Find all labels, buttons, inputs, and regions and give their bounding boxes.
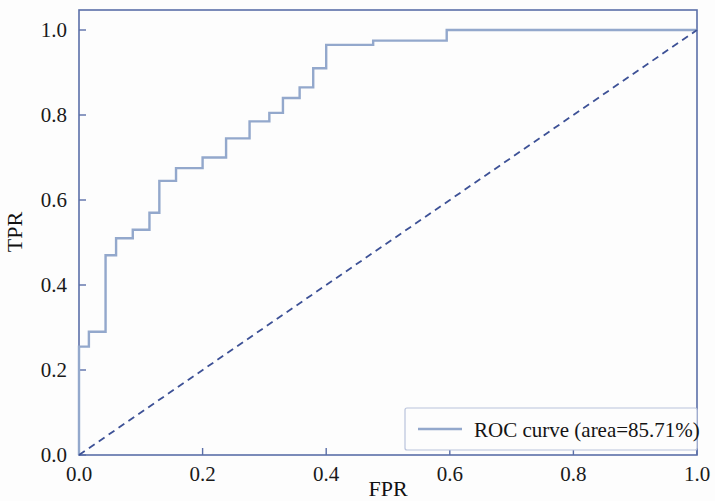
plot-background xyxy=(79,10,697,455)
x-tick-label: 0.8 xyxy=(560,462,586,486)
y-tick-label: 0.2 xyxy=(41,358,67,382)
y-tick-label: 0.6 xyxy=(41,188,67,212)
x-axis-title: FPR xyxy=(368,476,407,501)
y-tick-label: 0.0 xyxy=(41,443,67,467)
y-axis-tick-labels: 0.00.20.40.60.81.0 xyxy=(41,18,68,467)
x-tick-label: 0.4 xyxy=(313,462,340,486)
chart-canvas: 0.00.20.40.60.81.0 0.00.20.40.60.81.0 FP… xyxy=(0,0,715,501)
roc-chart-figure: 0.00.20.40.60.81.0 0.00.20.40.60.81.0 FP… xyxy=(0,0,715,501)
x-tick-label: 1.0 xyxy=(684,462,710,486)
y-tick-label: 0.8 xyxy=(41,103,67,127)
y-axis-title: TPR xyxy=(2,212,27,253)
x-tick-label: 0.0 xyxy=(66,462,92,486)
x-tick-label: 0.2 xyxy=(189,462,215,486)
x-tick-label: 0.6 xyxy=(437,462,463,486)
y-tick-label: 1.0 xyxy=(41,18,67,42)
legend-entry-label: ROC curve (area=85.71%) xyxy=(474,418,700,442)
y-tick-label: 0.4 xyxy=(41,273,68,297)
chart-legend[interactable]: ROC curve (area=85.71%) xyxy=(405,408,700,450)
